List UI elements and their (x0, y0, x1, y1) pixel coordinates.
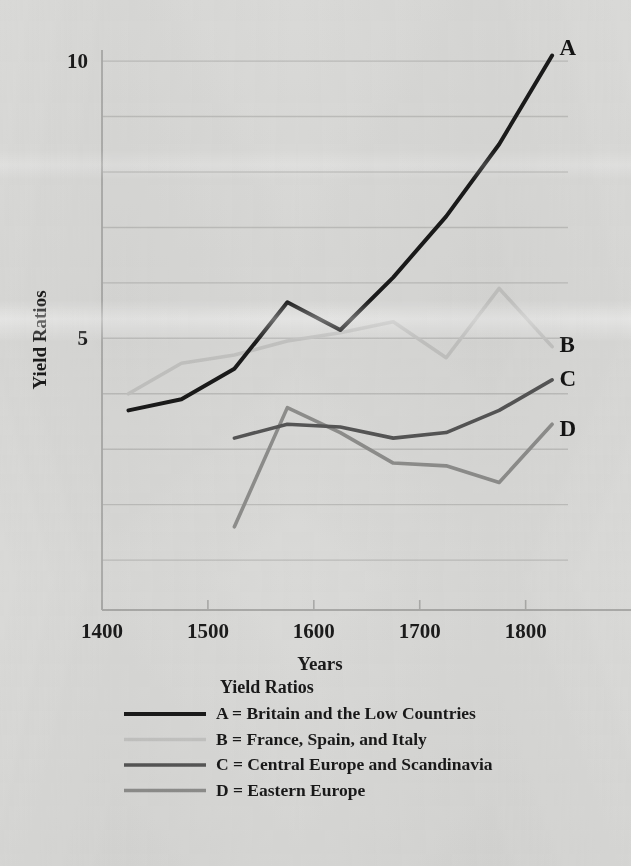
y-tick-label: 10 (67, 49, 88, 73)
series-line-c (234, 380, 552, 438)
yield-ratios-line-chart: 14001500160017001800510YearsYield Ratios… (0, 0, 631, 866)
legend-label-c: C = Central Europe and Scandinavia (216, 754, 493, 774)
x-axis-title: Years (297, 653, 342, 674)
legend-title: Yield Ratios (220, 677, 314, 697)
x-tick-label: 1500 (187, 619, 229, 643)
x-tick-label: 1400 (81, 619, 123, 643)
series-label-a: A (560, 35, 577, 60)
y-tick-label: 5 (78, 326, 89, 350)
legend-label-a: A = Britain and the Low Countries (216, 703, 476, 723)
series-line-a (128, 56, 552, 411)
x-tick-label: 1600 (293, 619, 335, 643)
series-label-c: C (560, 366, 577, 391)
series-label-b: B (560, 332, 575, 357)
series-line-b (128, 288, 552, 393)
chart-page: 14001500160017001800510YearsYield Ratios… (0, 0, 631, 866)
x-tick-label: 1700 (399, 619, 441, 643)
x-tick-label: 1800 (505, 619, 547, 643)
legend-label-b: B = France, Spain, and Italy (216, 729, 427, 749)
series-label-d: D (560, 416, 577, 441)
legend-label-d: D = Eastern Europe (216, 780, 365, 800)
y-axis-title: Yield Ratios (29, 290, 50, 389)
